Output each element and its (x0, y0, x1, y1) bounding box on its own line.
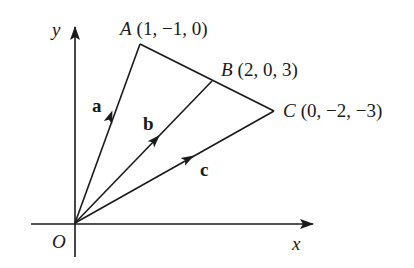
vector-c-arrow-icon (181, 152, 197, 166)
x-axis-label: x (291, 233, 301, 254)
vector-diagram: y x O A(1, −1, 0) B(2, 0, 3) C(0, −2, −3… (0, 0, 414, 268)
point-c-name: C (283, 100, 296, 121)
point-a-name: A (118, 18, 132, 39)
point-a-label: A(1, −1, 0) (118, 18, 207, 40)
vector-c-line (75, 111, 274, 223)
point-b-label: B(2, 0, 3) (221, 59, 298, 81)
vector-a-arrow-icon (104, 109, 117, 124)
point-b-coords: (2, 0, 3) (238, 59, 298, 81)
point-a-coords: (1, −1, 0) (137, 18, 208, 40)
vector-a-line (75, 44, 140, 223)
origin-label: O (52, 231, 66, 252)
vector-c-label: c (200, 159, 208, 180)
vector-b-label: b (143, 113, 154, 134)
point-c-coords: (0, −2, −3) (301, 100, 383, 122)
point-c-label: C(0, −2, −3) (283, 100, 382, 122)
diagram-svg: y x O A(1, −1, 0) B(2, 0, 3) C(0, −2, −3… (0, 0, 414, 268)
vector-a-label: a (92, 95, 102, 116)
point-b-name: B (221, 59, 233, 80)
y-axis-label: y (50, 19, 61, 40)
